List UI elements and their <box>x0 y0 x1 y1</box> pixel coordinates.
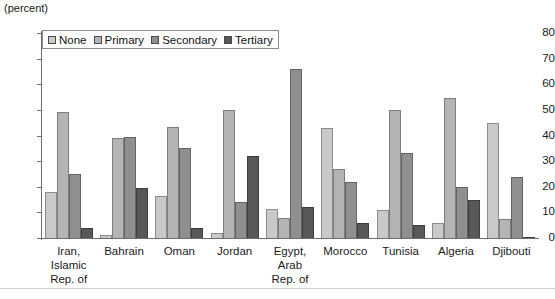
x-axis-category-label: Jordan <box>207 244 262 258</box>
legend-item-label: None <box>59 34 87 46</box>
bar <box>357 223 369 238</box>
bar <box>523 237 535 238</box>
x-axis-category-label: Iran,IslamicRep. of <box>41 244 96 286</box>
bar-group <box>96 33 151 238</box>
plot-area <box>41 33 539 238</box>
bar <box>45 192 57 238</box>
x-axis-category-label: Morocco <box>318 244 373 258</box>
x-axis-category-label-line: Jordan <box>207 244 262 258</box>
bar <box>266 209 278 238</box>
bar <box>247 156 259 238</box>
legend-swatch-icon <box>151 36 159 44</box>
y-axis-tick-mark <box>37 238 41 239</box>
x-axis-category-label-line: Arab <box>262 258 317 272</box>
bar <box>278 218 290 239</box>
bar <box>499 219 511 238</box>
x-axis-line <box>41 238 539 239</box>
x-axis-category-label: Algeria <box>428 244 483 258</box>
x-axis-category-label-line: Bahrain <box>96 244 151 258</box>
bar <box>235 202 247 238</box>
bar-group <box>262 33 317 238</box>
bar <box>167 127 179 238</box>
bar <box>290 69 302 238</box>
x-axis-category-label-line: Tunisia <box>373 244 428 258</box>
bar-group-bars <box>373 33 428 238</box>
bar-group <box>318 33 373 238</box>
bar-group <box>207 33 262 238</box>
x-axis-category-label: Tunisia <box>373 244 428 258</box>
legend-swatch-icon <box>48 36 56 44</box>
x-axis-category-label-line: Djibouti <box>484 244 539 258</box>
bar <box>124 137 136 238</box>
bar-group-bars <box>152 33 207 238</box>
bar-group-bars <box>96 33 151 238</box>
bar <box>112 138 124 238</box>
bar <box>413 225 425 238</box>
units-label: (percent) <box>4 2 48 15</box>
bar-chart: (percent) 01020304050607080 Iran,Islamic… <box>0 0 555 299</box>
x-axis-category-label: Egypt,ArabRep. of <box>262 244 317 286</box>
x-axis-category-label: Oman <box>152 244 207 258</box>
legend-item[interactable]: None <box>48 34 87 46</box>
bar-group-bars <box>428 33 483 238</box>
legend-item-label: Tertiary <box>235 34 273 46</box>
x-axis-category-label: Bahrain <box>96 244 151 258</box>
bar <box>321 128 333 238</box>
bar <box>211 233 223 238</box>
bar-group-bars <box>41 33 96 238</box>
x-axis-category-label-line: Morocco <box>318 244 373 258</box>
bar <box>511 177 523 239</box>
legend-item[interactable]: Secondary <box>151 34 217 46</box>
x-axis-category-label-line: Rep. of <box>262 272 317 286</box>
legend-swatch-icon <box>94 36 102 44</box>
bar <box>333 169 345 238</box>
bar <box>69 174 81 238</box>
bar <box>136 188 148 238</box>
bar <box>179 148 191 238</box>
bar-group-bars <box>262 33 317 238</box>
x-axis-category-label: Djibouti <box>484 244 539 258</box>
bar-group-bars <box>484 33 539 238</box>
bar <box>223 110 235 238</box>
bar-group <box>152 33 207 238</box>
bar-group-bars <box>318 33 373 238</box>
bar-group-bars <box>207 33 262 238</box>
x-axis-category-label-line: Algeria <box>428 244 483 258</box>
bar <box>444 98 456 238</box>
x-axis-category-label-line: Oman <box>152 244 207 258</box>
bar <box>487 123 499 238</box>
bar <box>345 182 357 238</box>
bar <box>389 110 401 238</box>
bar-group <box>41 33 96 238</box>
chart-legend: NonePrimarySecondaryTertiary <box>42 30 279 49</box>
bar <box>432 223 444 238</box>
x-axis-category-label-line: Rep. of <box>41 272 96 286</box>
x-axis-category-label-line: Islamic <box>41 258 96 272</box>
legend-item-label: Primary <box>105 34 145 46</box>
footer-divider <box>0 288 555 289</box>
legend-item-label: Secondary <box>162 34 217 46</box>
legend-swatch-icon <box>224 36 232 44</box>
bar <box>468 200 480 238</box>
legend-item[interactable]: Primary <box>94 34 145 46</box>
bar-group <box>484 33 539 238</box>
bar <box>401 153 413 238</box>
bar <box>155 196 167 238</box>
bar-group <box>373 33 428 238</box>
bar <box>57 112 69 238</box>
x-axis-category-label-line: Egypt, <box>262 244 317 258</box>
bar <box>377 210 389 238</box>
bar <box>456 187 468 238</box>
bar <box>191 228 203 238</box>
bar <box>81 228 93 238</box>
bar <box>302 207 314 238</box>
bar <box>100 235 112 238</box>
legend-item[interactable]: Tertiary <box>224 34 273 46</box>
x-axis-category-label-line: Iran, <box>41 244 96 258</box>
bar-group <box>428 33 483 238</box>
